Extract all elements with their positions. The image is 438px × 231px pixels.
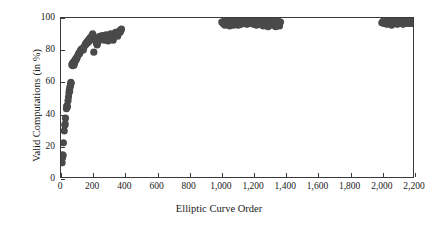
y-axis-tick bbox=[61, 179, 65, 180]
x-axis-tick bbox=[158, 173, 159, 177]
data-points-layer bbox=[61, 18, 413, 177]
x-axis-tick bbox=[254, 173, 255, 177]
y-axis-tick bbox=[61, 115, 65, 116]
data-point bbox=[61, 139, 67, 146]
data-point bbox=[118, 26, 125, 33]
y-axis-tick-label: 80 bbox=[22, 44, 55, 54]
y-axis-tick bbox=[61, 18, 65, 19]
data-point bbox=[64, 103, 71, 110]
x-axis-tick-label: 2,200 bbox=[394, 181, 434, 191]
x-axis-tick bbox=[415, 173, 416, 177]
x-axis-tick bbox=[318, 173, 319, 177]
y-axis-tick bbox=[61, 147, 65, 148]
x-axis-tick bbox=[383, 173, 384, 177]
x-axis-tick bbox=[190, 173, 191, 177]
scatter-chart-figure: Valid Computations (in %) 020406080100 0… bbox=[0, 0, 438, 231]
x-axis-tick bbox=[125, 173, 126, 177]
y-axis-tick-label: 20 bbox=[22, 141, 55, 151]
data-point bbox=[90, 49, 97, 56]
x-axis-tick bbox=[351, 173, 352, 177]
x-axis-tick bbox=[93, 173, 94, 177]
data-point bbox=[62, 115, 69, 122]
y-axis-tick bbox=[61, 82, 65, 83]
x-axis-tick bbox=[61, 173, 62, 177]
data-point bbox=[68, 80, 75, 87]
y-axis-tick bbox=[61, 50, 65, 51]
y-axis-tick-label: 40 bbox=[22, 109, 55, 119]
x-axis-tick bbox=[222, 173, 223, 177]
data-point bbox=[277, 18, 284, 25]
y-axis-tick-label: 60 bbox=[22, 76, 55, 86]
y-axis-tick-label: 100 bbox=[22, 12, 55, 22]
x-axis-label: Elliptic Curve Order bbox=[0, 203, 438, 214]
plot-area bbox=[60, 17, 414, 178]
x-axis-tick bbox=[286, 173, 287, 177]
